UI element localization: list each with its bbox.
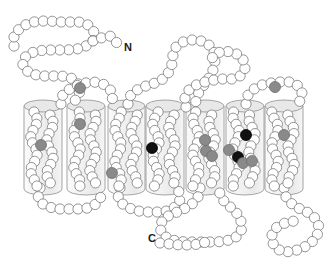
residue-circle [90,178,100,188]
residue-circle [215,188,225,198]
residue-circle [188,181,198,191]
residue-circle [134,206,144,216]
highlighted-residue-circle [36,140,47,151]
highlighted-residue-circle [247,156,258,167]
c-terminus-label: C [148,232,156,244]
protein-topology-svg: N C [0,0,331,275]
residue-circle [288,216,298,226]
residue-circle [155,238,165,248]
highlighted-residue-circle [279,130,290,141]
highlighted-residue-circle [147,143,158,154]
residue-circle [114,181,124,191]
helix-cylinder-top [146,100,184,112]
residue-circle [295,96,305,106]
residue-circle [75,181,85,191]
residue-circle [96,192,106,202]
residue-circle [200,237,210,247]
residue-circle [111,37,121,47]
residue-circle [283,178,293,188]
residue-circle [269,181,279,191]
residue-circle [32,181,42,191]
highlighted-residue-circle [200,135,211,146]
topology-diagram-canvas: N C [0,0,331,275]
residue-circle [46,202,56,212]
highlighted-residue-circle [241,130,252,141]
residue-circle [214,237,224,247]
residue-circle [206,178,216,188]
residue-circle [228,181,238,191]
highlighted-residue-circle [224,145,235,156]
highlighted-residue-circle [207,151,218,162]
highlighted-residue-circle [107,168,118,179]
residue-circle [207,53,217,63]
residue-circle [149,181,159,191]
highlighted-residue-circle [75,83,86,94]
residue-circle [132,178,142,188]
n-terminus-label: N [124,41,132,53]
residue-circle [70,95,80,105]
highlighted-residue-circle [75,119,86,130]
residue-circle [244,178,254,188]
residue-circle [169,178,179,188]
residue-circle [191,96,201,106]
highlighted-residue-circle [270,82,281,93]
residue-circle [45,178,55,188]
residue-circle [107,93,117,103]
